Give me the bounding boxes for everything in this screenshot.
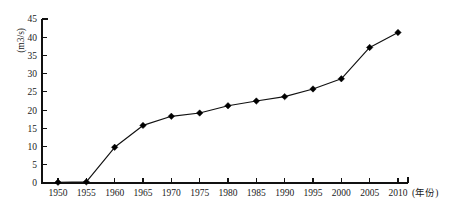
y-axis-ticks <box>42 37 47 183</box>
axis-spine <box>42 19 408 183</box>
data-point-marker <box>253 98 259 104</box>
x-tick-label: 1955 <box>77 188 96 198</box>
data-point-marker <box>55 179 61 185</box>
x-tick-label: 1950 <box>49 188 68 198</box>
y-tick-label: 0 <box>32 178 37 188</box>
x-axis-title: (年份) <box>412 187 438 199</box>
x-tick-label: 2000 <box>332 188 351 198</box>
x-tick-label: 1995 <box>304 188 323 198</box>
x-axis-tick-labels: 1950195519601965197019751980198519901995… <box>49 188 408 198</box>
y-tick-label: 30 <box>28 69 38 79</box>
x-tick-label: 1970 <box>162 188 181 198</box>
y-axis-title: (m3/s) <box>16 28 27 53</box>
data-point-markers <box>55 29 401 185</box>
x-tick-label: 1985 <box>247 188 266 198</box>
chart-axes <box>42 19 408 183</box>
y-tick-label: 10 <box>28 142 38 152</box>
x-tick-label: 1980 <box>219 188 238 198</box>
data-point-marker <box>225 103 231 109</box>
x-tick-label: 1965 <box>134 188 153 198</box>
data-point-marker <box>168 113 174 119</box>
x-tick-label: 1990 <box>275 188 294 198</box>
x-axis-ticks <box>58 178 398 183</box>
y-tick-label: 40 <box>28 33 38 43</box>
x-tick-label: 1975 <box>190 188 209 198</box>
y-tick-label: 5 <box>32 160 37 170</box>
y-tick-label: 45 <box>28 14 38 24</box>
y-tick-label: 35 <box>28 51 38 61</box>
x-tick-label: 2005 <box>360 188 379 198</box>
line-chart: 051015202530354045 195019551960196519701… <box>0 0 455 220</box>
x-tick-label: 1960 <box>105 188 124 198</box>
y-axis-tick-labels: 051015202530354045 <box>28 14 38 188</box>
data-point-marker <box>395 29 401 35</box>
data-point-marker <box>281 93 287 99</box>
data-point-marker <box>196 110 202 116</box>
x-tick-label: 2010 <box>389 188 408 198</box>
y-tick-label: 15 <box>28 124 38 134</box>
data-point-marker <box>310 86 316 92</box>
chart-container: 051015202530354045 195019551960196519701… <box>0 0 455 220</box>
y-tick-label: 25 <box>28 87 38 97</box>
y-tick-label: 20 <box>28 106 38 116</box>
